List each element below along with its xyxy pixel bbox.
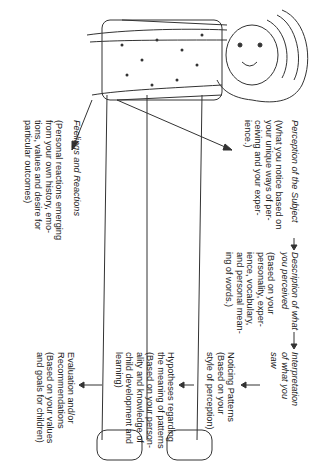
feelings-note: (Personal reactions emerging from your o…	[22, 120, 64, 240]
perception-note: (What you notice based on your unique wa…	[242, 120, 284, 229]
perception-title: Perception of the Subject	[290, 120, 300, 223]
description-note: (Based on your personality, exper- ience…	[224, 252, 276, 334]
face-icon	[226, 25, 278, 85]
interpretation-title: Interpretation of what you saw	[269, 352, 300, 406]
description-title: Description of what you perceived	[279, 252, 300, 330]
rotated-diagram-page: Perception of the Subject (What you noti…	[0, 0, 322, 474]
hair-outline-icon	[217, 10, 308, 102]
noticing-patterns: Noticing Patterns (Based on your style o…	[205, 352, 236, 430]
evaluation: Evaluation and/or Recommendations (Based…	[34, 352, 76, 443]
feelings-title: Feelings and Reactions	[72, 120, 82, 216]
hypotheses: Hypotheses regarding the meaning of patt…	[114, 352, 176, 449]
